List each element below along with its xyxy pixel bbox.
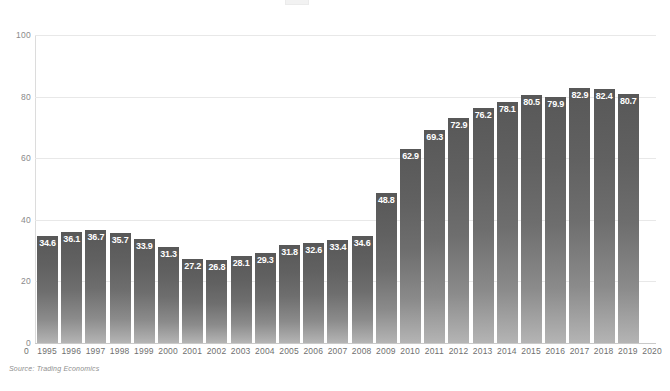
bar-value-label: 32.6 [303,246,324,255]
x-axis-tick-label: 2020 [635,347,669,356]
y-axis-tick-label: 100 [1,31,31,40]
bar-slot: 32.6 [301,35,326,343]
bar-value-label: 34.6 [37,239,58,248]
bar[interactable]: 28.1 [231,256,252,343]
bar-value-label: 36.7 [85,233,106,242]
bar-value-label: 62.9 [400,152,421,161]
bar-slot: 72.9 [446,35,471,343]
bar-value-label: 36.1 [61,235,82,244]
bar[interactable]: 34.6 [37,236,58,343]
bar[interactable]: 29.3 [255,253,276,343]
bar[interactable]: 62.9 [400,149,421,343]
y-axis-tick-label: 80 [1,93,31,102]
bar[interactable]: 48.8 [376,193,397,343]
bar-slot: 35.7 [108,35,133,343]
bar[interactable]: 76.2 [473,108,494,343]
bar[interactable]: 31.3 [158,247,179,343]
bar-slot: 62.9 [398,35,423,343]
bar-value-label: 82.9 [569,91,590,100]
bar-value-label: 80.7 [618,97,639,106]
bar-value-label: 48.8 [376,196,397,205]
bar[interactable]: 72.9 [448,118,469,343]
bar[interactable]: 27.2 [182,259,203,343]
x-axis-origin-label: 0 [24,347,29,356]
bar-slot: 29.3 [253,35,278,343]
bar[interactable]: 82.4 [594,89,615,343]
bar[interactable]: 36.1 [61,232,82,343]
plot-area: 34.636.136.735.733.931.327.226.828.129.3… [35,35,656,343]
bar-chart: 020406080100 34.636.136.735.733.931.327.… [0,0,670,391]
bar-value-label: 69.3 [424,133,445,142]
bar[interactable]: 32.6 [303,243,324,343]
bar-slot: 48.8 [374,35,399,343]
bar-value-label: 34.6 [352,239,373,248]
bar-slot: 78.1 [495,35,520,343]
bar-value-label: 35.7 [110,236,131,245]
y-axis-tick-labels: 020406080100 [0,0,31,391]
bar-slot: 28.1 [229,35,254,343]
bar-value-label: 31.3 [158,250,179,259]
bar-slot: 69.3 [422,35,447,343]
bar-value-label: 27.2 [182,262,203,271]
bar-value-label: 26.8 [206,263,227,272]
bar[interactable]: 80.5 [521,95,542,343]
source-note: Source: Trading Economics [9,365,99,372]
bar-slot: 76.2 [471,35,496,343]
bar[interactable]: 78.1 [497,102,518,343]
bar-value-label: 31.8 [279,248,300,257]
bar-slot: 79.9 [543,35,568,343]
bar-value-label: 82.4 [594,92,615,101]
bar-value-label: 80.5 [521,98,542,107]
bar-slot: 31.8 [277,35,302,343]
bar[interactable]: 79.9 [545,97,566,343]
y-axis-tick-label: 60 [1,154,31,163]
x-axis-line [35,343,656,344]
bar[interactable]: 33.9 [134,239,155,343]
bar[interactable]: 69.3 [424,130,445,343]
bar-slot: 26.8 [204,35,229,343]
bar[interactable]: 34.6 [352,236,373,343]
y-axis-tick-label: 40 [1,216,31,225]
bar[interactable]: 35.7 [110,233,131,343]
bar-value-label: 29.3 [255,256,276,265]
bar-value-label: 33.4 [327,243,348,252]
bar-slot: 27.2 [180,35,205,343]
bar-slot: 34.6 [350,35,375,343]
y-axis-tick-label: 20 [1,277,31,286]
bar-slot: 31.3 [156,35,181,343]
bar-value-label: 33.9 [134,242,155,251]
bar-value-label: 79.9 [545,100,566,109]
bar-slot: 34.6 [35,35,60,343]
bar[interactable]: 80.7 [618,94,639,343]
bar[interactable]: 82.9 [569,88,590,343]
bar-slot: 82.9 [567,35,592,343]
bar[interactable]: 31.8 [279,245,300,343]
bar-slot: 33.9 [132,35,157,343]
bar-value-label: 76.2 [473,111,494,120]
bar[interactable]: 33.4 [327,240,348,343]
bar-value-label: 28.1 [231,259,252,268]
bar-slot: 36.7 [83,35,108,343]
bar-slot: 33.4 [325,35,350,343]
bar-slot: 80.7 [616,35,641,343]
cropped-header-element [285,0,309,5]
bar-slot: 82.4 [592,35,617,343]
bar[interactable]: 36.7 [85,230,106,343]
bar-value-label: 72.9 [448,121,469,130]
bar-value-label: 78.1 [497,105,518,114]
bar-slot: 36.1 [59,35,84,343]
bar-slot: 80.5 [519,35,544,343]
bar[interactable]: 26.8 [206,260,227,343]
